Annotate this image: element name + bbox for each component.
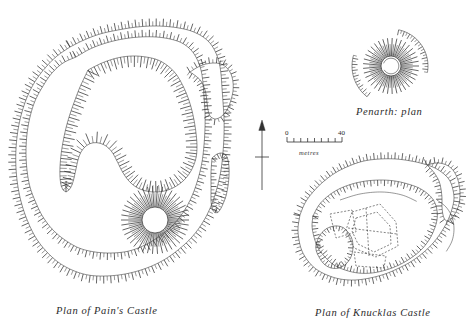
scale-bar-units-label: metres (299, 149, 319, 156)
north-arrow-icon (255, 120, 269, 190)
caption-knucklas-castle: Plan of Knucklas Castle (315, 307, 431, 318)
scale-bar-max-label: 40 (338, 129, 345, 137)
site-plan-plate: Plan of Pain's Castle Penarth: plan Plan… (0, 0, 475, 326)
scale-bar-zero-label: 0 (285, 129, 289, 137)
figure-knucklas-castle (291, 152, 465, 286)
caption-penarth: Penarth: plan (356, 106, 422, 117)
figure-pains-castle (8, 19, 239, 284)
scale-bar (287, 137, 342, 142)
caption-pains-castle: Plan of Pain's Castle (56, 305, 157, 316)
figure-penarth (352, 30, 428, 97)
site-plan-drawing (0, 0, 475, 326)
